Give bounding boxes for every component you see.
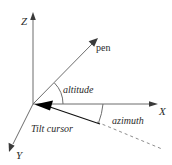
azimuth-projection-dashed-line <box>97 122 162 149</box>
z-axis-arrow-icon <box>30 12 36 20</box>
pen-orientation-diagram: Z X Y pen altitude azimuth Tilt cursor <box>0 0 172 165</box>
tilt-cursor-arrow-icon <box>35 101 54 111</box>
azimuth-label: azimuth <box>112 115 144 126</box>
y-axis-label: Y <box>16 149 24 161</box>
altitude-arc <box>55 83 64 104</box>
pen-ray-line <box>33 44 92 104</box>
tilt-cursor-label: Tilt cursor <box>31 123 73 134</box>
y-axis-line <box>13 104 33 144</box>
y-axis-arrow-icon <box>9 143 15 152</box>
x-axis-arrow-icon <box>149 101 158 106</box>
x-axis-label: X <box>158 105 167 117</box>
pen-label: pen <box>96 42 110 53</box>
azimuth-arc <box>99 104 104 123</box>
tilt-cursor-line <box>50 107 100 124</box>
z-axis-label: Z <box>21 15 28 27</box>
altitude-label: altitude <box>63 84 94 95</box>
diagram-canvas: Z X Y pen altitude azimuth Tilt cursor <box>0 0 172 165</box>
